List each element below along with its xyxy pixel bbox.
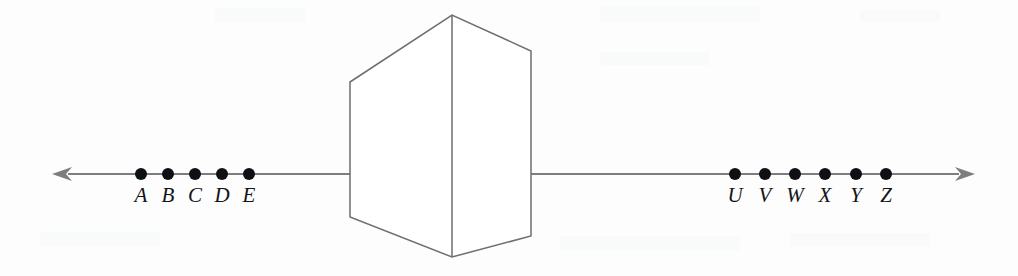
left-ray-labels: ABCDE bbox=[133, 183, 256, 207]
svg-text:W: W bbox=[786, 183, 806, 207]
right-ray-labels: UVWXYZ bbox=[727, 183, 892, 207]
svg-text:Y: Y bbox=[850, 183, 864, 207]
optics-diagram-svg: ABCDE UVWXYZ bbox=[0, 0, 1018, 276]
svg-text:B: B bbox=[162, 183, 175, 207]
figure-canvas: ABCDE UVWXYZ bbox=[0, 0, 1018, 276]
svg-text:X: X bbox=[818, 183, 833, 207]
svg-text:D: D bbox=[213, 183, 229, 207]
svg-text:V: V bbox=[759, 183, 774, 207]
svg-text:Z: Z bbox=[880, 183, 892, 207]
prism-shape bbox=[350, 15, 531, 257]
svg-text:U: U bbox=[727, 183, 744, 207]
svg-text:C: C bbox=[188, 183, 203, 207]
svg-text:A: A bbox=[133, 183, 148, 207]
svg-text:E: E bbox=[242, 183, 256, 207]
